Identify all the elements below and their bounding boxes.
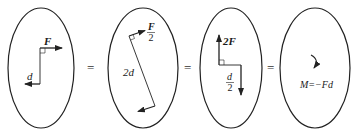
panel-2-force-arrow-top (129, 31, 145, 37)
panel-3-distance-numerator: d (227, 71, 233, 82)
equals-sign-3: = (267, 60, 274, 75)
couple-equivalence-diagram: F d = F 2 2d = (0, 0, 358, 136)
panel-2-force-arrow-bottom (138, 106, 155, 112)
equals-sign-2: = (184, 60, 191, 75)
panel-1-ellipse (8, 8, 74, 128)
panel-4: M=−Fd (280, 8, 350, 128)
panel-1-right-angle (40, 48, 45, 53)
panel-3-ellipse (200, 8, 262, 128)
panel-3-right-angle (219, 60, 224, 65)
equals-sign-1: = (87, 60, 94, 75)
panel-2-distance-label: 2d (123, 66, 135, 78)
panel-2: F 2 2d (108, 8, 178, 128)
panel-2-force-denominator: 2 (149, 32, 154, 43)
panel-1-distance-label: d (27, 70, 33, 82)
panel-3-force-label: 2F (222, 35, 237, 47)
clockwise-moment-icon (311, 55, 316, 68)
panel-3-distance-denominator: 2 (228, 82, 233, 93)
panel-4-ellipse (280, 8, 350, 128)
panel-4-moment-label: M=−Fd (299, 79, 334, 90)
panel-1-force-label: F (43, 35, 52, 47)
panel-2-force-numerator: F (147, 21, 155, 32)
panel-3: 2F d 2 (200, 8, 262, 128)
panel-1: F d (8, 8, 74, 128)
